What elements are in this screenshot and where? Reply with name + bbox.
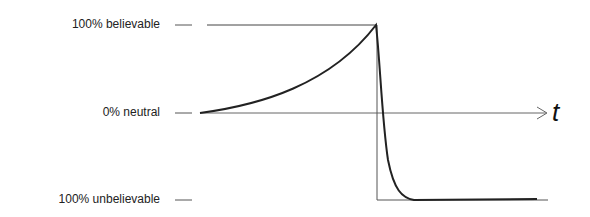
believability-diagram: 100% believable 0% neutral 100% unbeliev…: [0, 0, 590, 217]
time-variable-label: t: [552, 97, 559, 128]
time-axis: [200, 107, 547, 119]
level-ticks: [175, 25, 192, 200]
diagram-canvas: [0, 0, 590, 217]
